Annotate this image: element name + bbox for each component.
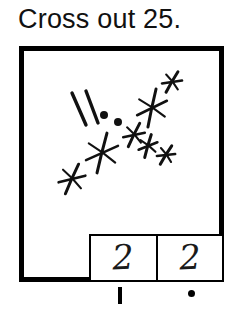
tally-tick-mark [118, 287, 122, 304]
tally-slash-2 [86, 91, 98, 123]
star-mark-3 [122, 122, 145, 148]
ink-dot-1 [100, 111, 108, 119]
star-mark-1 [161, 69, 184, 94]
answer-cell-1[interactable]: 2 [89, 234, 158, 282]
page-title: Cross out 25. [18, 4, 181, 34]
star-mark-2 [134, 88, 170, 129]
worksheet: Cross out 25. 2 2 [0, 0, 244, 320]
star-mark-7 [58, 163, 86, 195]
drawing-frame: 2 2 [19, 46, 224, 282]
star-mark-5 [155, 143, 176, 166]
answer-digit-1: 2 [112, 239, 135, 274]
below-frame-marks [0, 282, 244, 320]
answer-cell-2[interactable]: 2 [158, 234, 225, 282]
star-mark-4 [138, 134, 159, 158]
period-dot-mark [188, 290, 195, 297]
ink-dot-2 [114, 118, 122, 126]
answer-boxes: 2 2 [89, 234, 224, 282]
tally-slash-1 [72, 93, 86, 125]
answer-digit-2: 2 [178, 239, 201, 274]
star-mark-6 [83, 132, 120, 174]
